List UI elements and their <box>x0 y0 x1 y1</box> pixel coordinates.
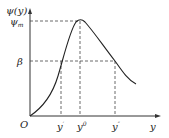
psi-m-label: ψm <box>10 16 24 28</box>
y0-label: y0 <box>76 120 87 132</box>
x-axis-arrow-icon <box>155 114 161 118</box>
y-prime-label: y′ <box>56 120 65 132</box>
function-curve-diagram: ψ(y) ψm β O y′ y0 y″ y <box>0 0 169 138</box>
x-axis-label: y <box>149 121 156 132</box>
y-axis-arrow-icon <box>28 8 32 14</box>
y-double-prime-label: y″ <box>111 120 121 132</box>
beta-label: β <box>16 56 23 67</box>
origin-label: O <box>20 119 28 130</box>
y-axis-label: ψ(y) <box>6 5 27 16</box>
psi-curve <box>30 20 136 116</box>
